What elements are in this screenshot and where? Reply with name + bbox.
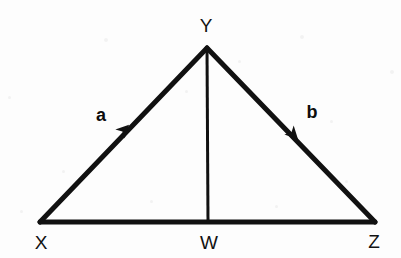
vector-label-a: a <box>96 106 106 124</box>
triangle-diagram-svg <box>0 0 401 258</box>
segment-median-yw <box>207 48 208 222</box>
vertex-label-x: X <box>35 233 48 252</box>
segment-side-xy <box>40 48 207 222</box>
diagram-canvas: X Y Z W a b <box>0 0 401 258</box>
vertex-label-y: Y <box>200 16 213 35</box>
vertex-label-w: W <box>200 233 218 252</box>
vector-label-b: b <box>307 103 318 121</box>
vertex-label-z: Z <box>368 232 380 251</box>
